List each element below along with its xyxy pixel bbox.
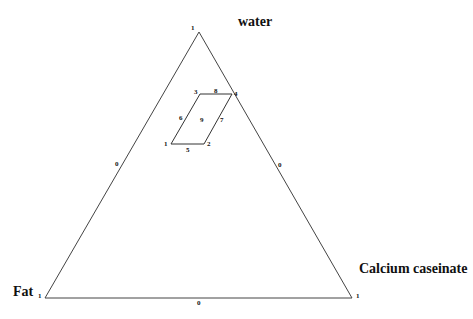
point-label-2: 2 [207,140,211,148]
vertex-tick-bottom-right: 1 [356,292,360,300]
point-label-6: 6 [179,114,183,122]
vertex-label-water: water [238,14,272,30]
vertex-tick-bottom-left: 1 [38,292,42,300]
point-label-8: 8 [214,87,218,95]
ternary-triangle [45,32,352,298]
point-label-5: 5 [186,146,190,154]
vertex-label-calcium-caseinate: Calcium caseinate [359,261,467,277]
point-label-3: 3 [194,88,198,96]
edge-tick-left: 0 [115,160,119,168]
point-label-7: 7 [220,116,224,124]
vertex-tick-top: 1 [191,24,195,32]
edge-tick-bottom: 0 [197,299,201,307]
point-label-9: 9 [200,116,204,124]
edge-tick-right: 0 [278,161,282,169]
point-label-1: 1 [164,140,168,148]
point-label-4: 4 [234,90,238,98]
vertex-label-fat: Fat [13,284,33,300]
